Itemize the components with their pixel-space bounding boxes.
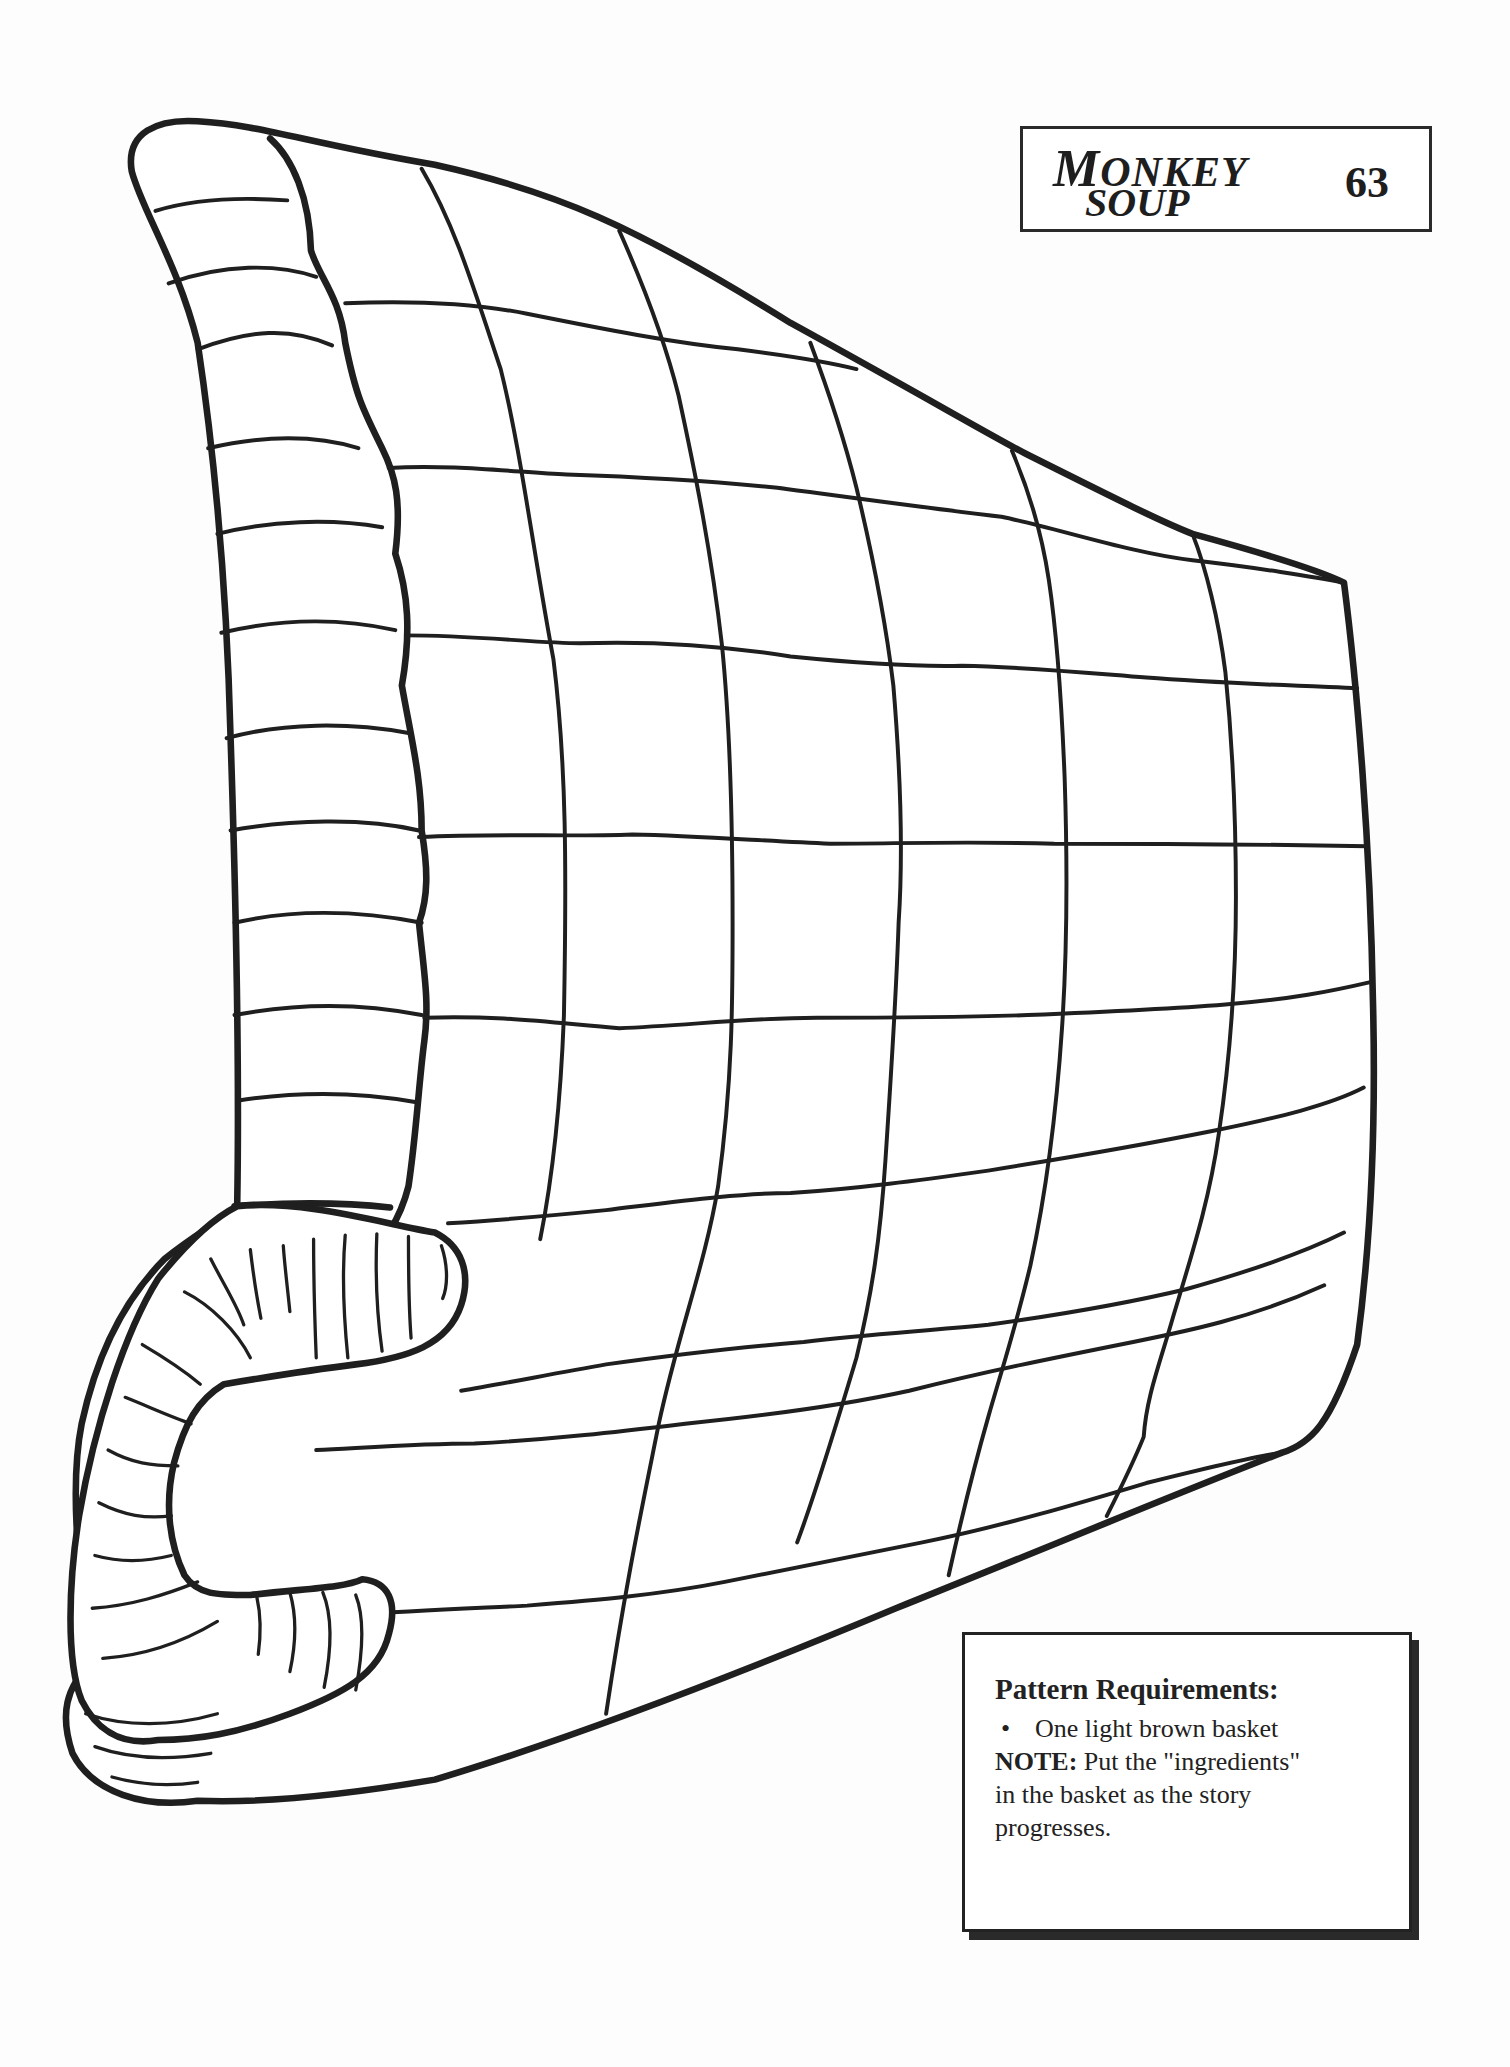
pattern-requirements-box: Pattern Requirements: •One light brown b… [962, 1632, 1412, 1932]
page-number: 63 [1345, 157, 1389, 208]
title-line2: SOUP [1085, 179, 1189, 226]
bullet-icon: • [995, 1712, 1035, 1745]
requirement-text: One light brown basket [1035, 1714, 1278, 1743]
basket-outline [66, 121, 1374, 1803]
title-box: MONKEY SOUP 63 [1020, 126, 1432, 232]
note-line3: progresses. [995, 1811, 1409, 1844]
note-line1: NOTE: Put the "ingredients" [995, 1745, 1409, 1778]
requirements-title: Pattern Requirements: [995, 1673, 1409, 1706]
note-label: NOTE: [995, 1747, 1077, 1776]
note-line2: in the basket as the story [995, 1778, 1409, 1811]
note-text-1: Put the "ingredients" [1077, 1747, 1300, 1776]
requirement-item: •One light brown basket [995, 1712, 1409, 1745]
